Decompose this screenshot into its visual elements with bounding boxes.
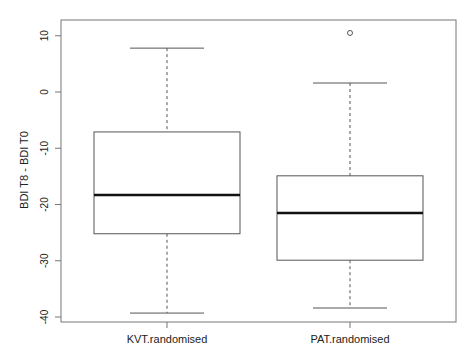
x-tick-label: PAT.randomised bbox=[310, 333, 389, 345]
outlier-point bbox=[348, 30, 353, 35]
box-KVT.randomised bbox=[94, 48, 240, 313]
y-tick-label: 0 bbox=[39, 89, 50, 95]
iqr-box bbox=[94, 132, 240, 234]
boxes bbox=[94, 30, 423, 313]
iqr-box bbox=[277, 176, 423, 260]
box-PAT.randomised bbox=[277, 30, 423, 308]
boxplot-chart: 100-10-20-30-40 BDI T8 - BDI T0 KVT.rand… bbox=[0, 0, 473, 359]
y-tick-label: -40 bbox=[39, 309, 50, 324]
y-axis-label: BDI T8 - BDI T0 bbox=[18, 131, 30, 209]
y-tick-label: 10 bbox=[39, 30, 50, 42]
y-axis: 100-10-20-30-40 bbox=[39, 30, 61, 324]
x-axis: KVT.randomisedPAT.randomised bbox=[127, 322, 390, 345]
y-tick-label: -10 bbox=[39, 141, 50, 156]
y-tick-label: -20 bbox=[39, 197, 50, 212]
y-tick-label: -30 bbox=[39, 253, 50, 268]
x-tick-label: KVT.randomised bbox=[127, 333, 208, 345]
